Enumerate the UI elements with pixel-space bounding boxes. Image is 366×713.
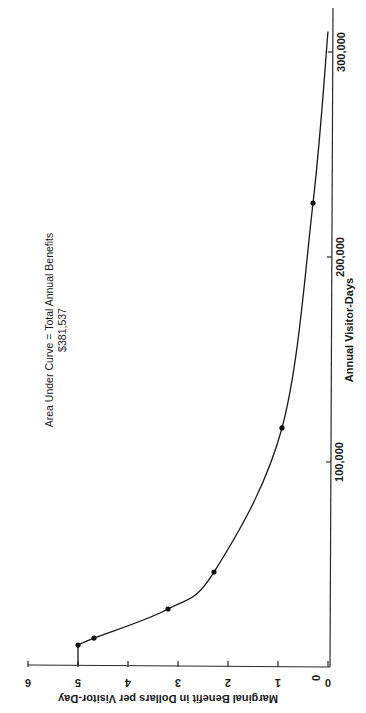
data-point [165,606,170,611]
visitor-tick-label: 0 [310,675,322,681]
value-tick-label: 1 [275,677,281,689]
visitor-tick-label: 300,000 [335,32,347,72]
visitor-tick-label: 100,000 [333,442,345,482]
data-point [211,569,216,574]
y-axis-title: Marginal Benefit in Dollars per Visitor-… [57,693,278,705]
data-point [279,425,284,430]
value-tick-label: 4 [124,677,131,689]
x-axis-title: Annual Visitor-Days [343,278,355,382]
value-axis-line [28,665,330,667]
annotation-line-2: $381,537 [56,308,68,352]
data-point [91,635,96,640]
value-tick-label: 5 [75,677,81,689]
value-tick-label: 2 [225,677,231,689]
data-points [75,200,315,647]
visitor-axis: 0100,000200,000300,000 [310,8,347,681]
visitor-axis-line [330,8,333,667]
value-tick-label: 0 [325,677,331,689]
benefit-curve [78,32,328,666]
value-tick-label: 3 [175,677,181,689]
marginal-benefit-chart: 0123456 0100,000200,000300,000 Marginal … [0,0,366,713]
annotation-line-1: Area Under Curve = Total Annual Benefits [43,233,55,427]
value-tick-label: 6 [25,677,31,689]
visitor-tick-label: 200,000 [334,237,346,277]
data-point [75,642,80,647]
value-axis: 0123456 [25,661,331,689]
data-point [310,200,315,205]
